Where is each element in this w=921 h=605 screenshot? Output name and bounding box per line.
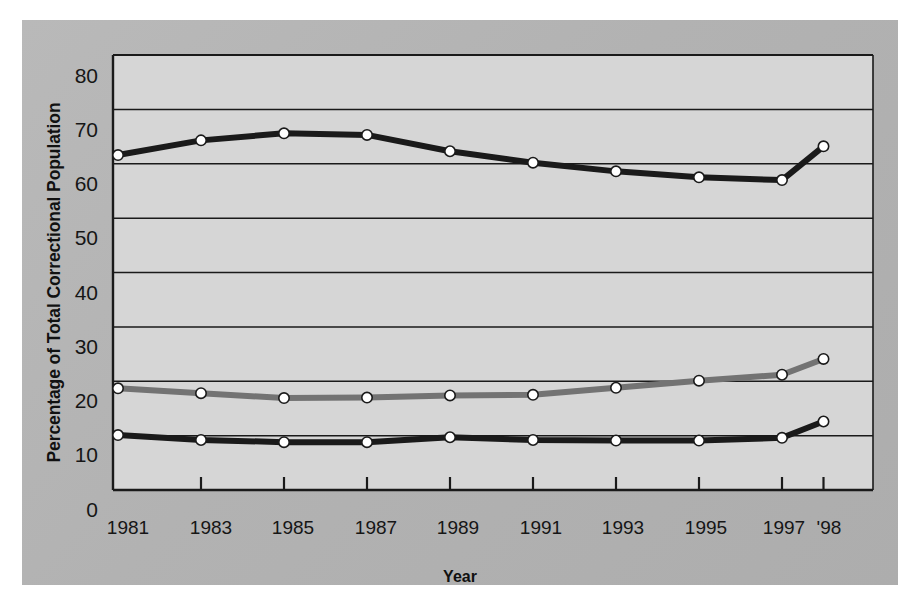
data-point-prison-1995 (694, 376, 704, 386)
data-point-probation-1981 (113, 150, 123, 160)
data-point-prison-1991 (528, 390, 538, 400)
data-point-jail-1985 (279, 437, 289, 447)
chart-figure: Percentage of Total Correctional Populat… (0, 0, 921, 605)
data-point-jail-1995 (694, 435, 704, 445)
data-point-prison-1981 (113, 383, 123, 393)
data-point-jail-1991 (528, 435, 538, 445)
data-point-prison-1993 (611, 383, 621, 393)
data-point-jail-1983 (196, 435, 206, 445)
data-point-probation-1985 (279, 128, 289, 138)
data-point-prison-1987 (362, 392, 372, 402)
data-point-jail-1993 (611, 435, 621, 445)
data-point-jail-1987 (362, 437, 372, 447)
data-point-probation-1989 (445, 146, 455, 156)
data-point-probation-1997 (777, 175, 787, 185)
data-point-prison-'98 (818, 354, 828, 364)
data-point-probation-1993 (611, 166, 621, 176)
data-point-probation-'98 (818, 141, 828, 151)
data-point-probation-1983 (196, 135, 206, 145)
data-point-prison-1997 (777, 370, 787, 380)
data-point-jail-1989 (445, 432, 455, 442)
data-point-probation-1995 (694, 172, 704, 182)
data-point-jail-1981 (113, 430, 123, 440)
data-point-prison-1983 (196, 388, 206, 398)
data-point-prison-1989 (445, 390, 455, 400)
data-point-prison-1985 (279, 393, 289, 403)
data-point-probation-1991 (528, 157, 538, 167)
chart-plot-svg (0, 0, 921, 605)
data-point-jail-'98 (818, 416, 828, 426)
data-point-probation-1987 (362, 130, 372, 140)
data-point-jail-1997 (777, 433, 787, 443)
